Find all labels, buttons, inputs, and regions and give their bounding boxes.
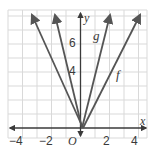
label-f: f [116, 67, 122, 82]
x-axis-label: x [139, 114, 146, 128]
x-tick-neg2: −2 [39, 134, 53, 148]
label-g: g [93, 28, 100, 43]
origin-label: O [68, 134, 77, 148]
y-tick-6: 6 [69, 36, 76, 50]
coordinate-plane: y x 6 4 −4 −2 O 2 4 g f [0, 0, 155, 152]
y-tick-4: 4 [69, 64, 76, 78]
x-tick-4: 4 [131, 134, 138, 148]
x-tick-neg4: −4 [9, 134, 23, 148]
y-axis-label: y [83, 11, 90, 25]
grid [8, 10, 147, 138]
x-tick-2: 2 [103, 134, 110, 148]
